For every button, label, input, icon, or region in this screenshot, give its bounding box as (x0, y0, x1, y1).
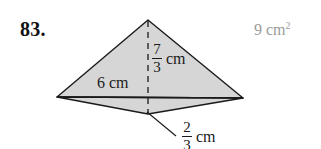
depth-unit: cm (196, 128, 216, 146)
height-numerator: 7 (152, 42, 162, 58)
figure-page: 83. 9 cm2 6 cm 7 3 cm 2 3 (0, 0, 321, 149)
depth-label: 2 3 cm (182, 118, 216, 149)
height-unit: cm (166, 50, 186, 68)
base-line (57, 97, 243, 98)
height-label: 7 3 cm (152, 40, 186, 75)
height-fraction: 7 3 (152, 42, 162, 75)
depth-numerator: 2 (182, 120, 192, 136)
depth-leader-line (147, 112, 176, 136)
lower-triangle (57, 97, 243, 114)
depth-fraction-wrap: 2 3 cm (182, 120, 216, 149)
depth-denominator: 3 (182, 137, 192, 149)
base-label: 6 cm (97, 74, 129, 92)
height-fraction-wrap: 7 3 cm (152, 42, 186, 75)
upper-triangle (57, 20, 243, 98)
height-denominator: 3 (152, 59, 162, 75)
depth-fraction: 2 3 (182, 120, 192, 149)
